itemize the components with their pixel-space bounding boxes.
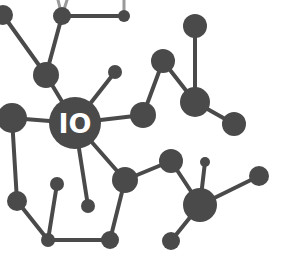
nodes: IO	[0, 5, 269, 250]
node	[0, 5, 13, 25]
node	[180, 87, 210, 117]
node	[183, 188, 217, 222]
node	[0, 103, 27, 133]
node	[81, 199, 95, 213]
node	[33, 62, 59, 88]
node	[162, 232, 180, 250]
edges	[3, 0, 259, 241]
node	[41, 233, 55, 247]
node	[108, 65, 122, 79]
node	[130, 102, 156, 128]
node	[101, 231, 119, 249]
node	[222, 112, 246, 136]
node	[159, 149, 183, 173]
node	[7, 191, 27, 211]
node	[53, 7, 71, 25]
network-diagram: IO	[0, 0, 285, 271]
node	[183, 14, 207, 38]
node	[151, 49, 175, 73]
node	[200, 157, 210, 167]
node	[112, 167, 138, 193]
center-label: IO	[59, 108, 92, 139]
node	[118, 10, 130, 22]
node	[249, 166, 269, 186]
edge	[48, 184, 57, 240]
node	[50, 177, 64, 191]
